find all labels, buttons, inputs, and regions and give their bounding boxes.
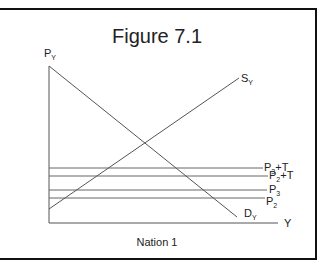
price-label-p2: P2 xyxy=(266,195,277,209)
supply-curve xyxy=(49,78,239,209)
price-label-p2-t: P2+T xyxy=(269,169,294,183)
y-axis-label: PY xyxy=(44,47,56,61)
x-axis-label: Y xyxy=(284,217,292,229)
demand-curve xyxy=(49,66,237,217)
demand-label: DY xyxy=(244,207,257,221)
figure-caption: Nation 1 xyxy=(137,236,178,248)
supply-label: SY xyxy=(241,72,253,86)
diagram-canvas: Figure 7.1 PY Y SY DY P3+T P2+T P3 P2 Na… xyxy=(0,0,336,270)
figure-title: Figure 7.1 xyxy=(112,25,202,47)
